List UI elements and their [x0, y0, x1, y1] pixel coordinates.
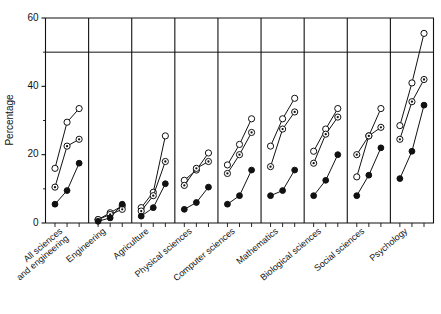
marker-open-circle-p5-0 [267, 143, 273, 149]
marker-filled-circle-p8-1 [409, 148, 415, 154]
series-layer [52, 30, 427, 224]
y-tick-label-20: 20 [27, 148, 39, 159]
marker-filled-circle-p3-1 [193, 200, 199, 206]
series-half-filled-circle-panel-7-line [357, 127, 381, 154]
marker-filled-circle-p5-1 [280, 188, 286, 194]
marker-open-circle-p2-2 [162, 133, 168, 139]
marker-filled-circle-p0-2 [76, 160, 82, 166]
marker-dot-center-p4-2 [250, 131, 252, 133]
marker-open-circle-p4-0 [224, 162, 230, 168]
marker-dot-center-p5-2 [294, 111, 296, 113]
y-axis-tick-labels: 0204060 [27, 12, 39, 228]
marker-filled-circle-p6-2 [335, 152, 341, 158]
series-filled-circle-panel-6-line [314, 155, 338, 196]
marker-filled-circle-p5-2 [292, 167, 298, 173]
marker-open-circle-p0-1 [64, 119, 70, 125]
series-filled-circle-panel-0-line [55, 163, 79, 204]
marker-open-circle-p3-2 [205, 150, 211, 156]
marker-dot-center-p3-1 [195, 167, 197, 169]
marker-filled-circle-p6-0 [311, 193, 317, 199]
chart-container: 0204060 Percentage All sciencesand engin… [0, 0, 441, 314]
marker-dot-center-p3-2 [207, 160, 209, 162]
marker-filled-circle-p5-0 [268, 193, 274, 199]
marker-filled-circle-p7-1 [366, 172, 372, 178]
marker-filled-circle-p4-2 [249, 167, 255, 173]
marker-open-circle-p4-2 [248, 116, 254, 122]
y-tick-label-0: 0 [33, 217, 39, 228]
marker-filled-circle-p6-1 [323, 177, 329, 183]
marker-open-circle-p4-1 [236, 141, 242, 147]
percentage-by-field-line-chart: 0204060 Percentage All sciencesand engin… [0, 0, 441, 314]
marker-dot-center-p7-0 [356, 154, 358, 156]
marker-dot-center-p1-2 [121, 208, 123, 210]
y-axis-title: Percentage [4, 94, 15, 146]
marker-open-circle-p8-1 [409, 80, 415, 86]
category-label-2: Agriculture [111, 226, 150, 261]
x-axis-ticks [55, 223, 424, 227]
marker-dot-center-p2-0 [140, 210, 142, 212]
series-open-circle-panel-7-line [357, 109, 381, 177]
marker-filled-circle-p1-1 [107, 215, 113, 221]
marker-dot-center-p0-0 [54, 186, 56, 188]
category-labels: All sciencesand engineeringEngineeringAg… [8, 226, 409, 284]
marker-filled-circle-p3-2 [206, 184, 212, 190]
marker-dot-center-p0-1 [66, 145, 68, 147]
marker-open-circle-p5-1 [280, 116, 286, 122]
series-filled-circle-panel-4-line [227, 170, 251, 204]
marker-filled-circle-p2-1 [150, 205, 156, 211]
marker-dot-center-p0-2 [78, 138, 80, 140]
marker-dot-center-p4-1 [238, 154, 240, 156]
marker-dot-center-p2-1 [152, 195, 154, 197]
category-label-text: Mathematics [234, 226, 280, 267]
category-label-1: Engineering [64, 226, 107, 265]
marker-filled-circle-p2-2 [162, 181, 168, 187]
marker-filled-circle-p3-0 [181, 206, 187, 212]
series-filled-circle-panel-8-line [400, 105, 424, 178]
marker-open-circle-p5-2 [292, 95, 298, 101]
series-half-filled-circle-panel-8-line [400, 80, 424, 140]
series-filled-circle-panel-7-line [357, 148, 381, 196]
marker-open-circle-p6-0 [311, 148, 317, 154]
series-open-circle-panel-0-line [55, 109, 79, 169]
marker-filled-circle-p8-2 [421, 102, 427, 108]
series-half-filled-circle-panel-6-line [314, 117, 338, 163]
marker-dot-center-p6-1 [325, 133, 327, 135]
marker-open-circle-p0-0 [52, 165, 58, 171]
y-axis-ticks [42, 18, 46, 223]
category-label-text: Agriculture [111, 226, 150, 261]
marker-open-circle-p7-2 [378, 105, 384, 111]
marker-dot-center-p8-2 [423, 78, 425, 80]
marker-dot-center-p2-2 [164, 160, 166, 162]
marker-filled-circle-p4-0 [225, 201, 231, 207]
marker-open-circle-p6-2 [335, 105, 341, 111]
series-filled-circle-panel-3-line [184, 187, 208, 209]
category-label-text: Engineering [64, 226, 107, 265]
marker-dot-center-p8-1 [411, 101, 413, 103]
marker-filled-circle-p1-2 [119, 201, 125, 207]
marker-filled-circle-p7-2 [378, 145, 384, 151]
marker-dot-center-p6-0 [313, 162, 315, 164]
marker-dot-center-p7-1 [368, 135, 370, 137]
panel-separators [89, 18, 391, 223]
marker-dot-center-p6-2 [337, 116, 339, 118]
category-label-text: Psychology [368, 226, 410, 264]
marker-open-circle-p8-2 [421, 30, 427, 36]
marker-open-circle-p8-0 [397, 123, 403, 129]
marker-dot-center-p8-0 [399, 138, 401, 140]
y-tick-label-40: 40 [27, 80, 39, 91]
marker-filled-circle-p0-1 [64, 188, 70, 194]
series-filled-circle-panel-2-line [141, 184, 165, 216]
marker-dot-center-p5-0 [269, 165, 271, 167]
marker-dot-center-p7-2 [380, 126, 382, 128]
category-label-8: Psychology [368, 226, 410, 264]
y-tick-label-60: 60 [27, 12, 39, 23]
marker-open-circle-p7-0 [354, 174, 360, 180]
marker-open-circle-p0-2 [76, 105, 82, 111]
marker-filled-circle-p0-0 [52, 201, 58, 207]
marker-filled-circle-p2-0 [138, 213, 144, 219]
marker-dot-center-p3-0 [183, 184, 185, 186]
marker-dot-center-p4-0 [226, 172, 228, 174]
marker-filled-circle-p8-0 [397, 176, 403, 182]
marker-filled-circle-p1-0 [95, 218, 101, 224]
category-label-0: All sciencesand engineering [8, 226, 70, 283]
